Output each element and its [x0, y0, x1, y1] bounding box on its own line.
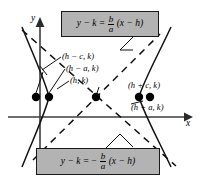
- equation-top-denominator: a: [108, 24, 115, 34]
- equation-bottom: y − k = − b a (x − h): [61, 152, 135, 171]
- y-axis: [36, 17, 45, 168]
- y-axis-label: y: [31, 14, 35, 24]
- label-center: (h, k): [70, 76, 88, 85]
- equation-bottom-denominator: a: [100, 161, 107, 171]
- hyperbola-right-branch: [139, 27, 171, 167]
- leader-line-top-box: [120, 37, 133, 50]
- label-left-vertex: (h − a, k): [66, 64, 99, 73]
- point-left-vertex: [45, 93, 53, 101]
- equation-box-bottom: y − k = − b a (x − h): [36, 148, 160, 175]
- equation-top-numerator: b: [108, 15, 115, 24]
- point-left-focus: [32, 93, 40, 101]
- equation-top-lhs: y − k =: [77, 19, 105, 29]
- equation-bottom-fraction: b a: [100, 152, 107, 171]
- equation-top-fraction: b a: [108, 15, 115, 34]
- equation-box-top: y − k = b a (x − h): [61, 11, 159, 37]
- equation-bottom-sign: −: [91, 157, 97, 167]
- plotted-points: [32, 93, 154, 101]
- point-right-vertex: [135, 93, 143, 101]
- label-right-vertex: (h + a, k): [131, 103, 164, 112]
- hyperbola-figure: y − k = b a (x − h) y − k = − b a (x − h…: [0, 0, 201, 184]
- equation-bottom-numerator: b: [100, 152, 107, 161]
- label-right-focus: (h + c, k): [128, 81, 160, 90]
- point-center: [92, 93, 100, 101]
- x-axis: [8, 113, 193, 122]
- x-axis-label: x: [186, 119, 190, 129]
- equation-bottom-rhs: (x − h): [109, 157, 135, 167]
- leader-line-bottom-box: [106, 134, 133, 148]
- label-left-focus: (h − c, k): [62, 52, 94, 61]
- equation-top: y − k = b a (x − h): [77, 15, 143, 34]
- point-right-focus: [146, 93, 154, 101]
- leader-line-center: [97, 87, 99, 93]
- equation-bottom-lhs: y − k =: [61, 157, 89, 167]
- equation-top-rhs: (x − h): [117, 19, 143, 29]
